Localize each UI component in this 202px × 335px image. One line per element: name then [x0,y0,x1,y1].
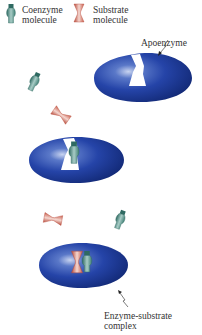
apoenzyme-label: Apoenzyme [141,38,187,48]
diagram-canvas [0,0,202,335]
apoenzyme-shape [94,53,192,102]
enzyme-substrate-complex-label: Enzyme-substrate complex [104,311,172,331]
free-coenzyme-1 [26,71,42,92]
free-substrate-1 [51,106,71,125]
complex-label-line2: complex [104,321,172,331]
coenzyme-molecule-icon [7,4,16,23]
complex-label-line1: Enzyme-substrate [104,311,172,321]
substrate-legend-label: Substrate molecule [93,5,128,25]
enzyme-substrate-complex-shape [39,243,128,288]
substrate-legend-line1: Substrate [93,5,128,15]
coenzyme-legend-line2: molecule [22,15,63,25]
substrate-molecule-icon [74,4,84,22]
coenzyme-legend-label: Coenzyme molecule [22,5,63,25]
free-substrate-2 [43,213,62,226]
coenzyme-legend-line1: Coenzyme [22,5,63,15]
complex-pointer [120,293,128,307]
free-coenzyme-2 [113,209,128,230]
substrate-legend-line2: molecule [93,15,128,25]
